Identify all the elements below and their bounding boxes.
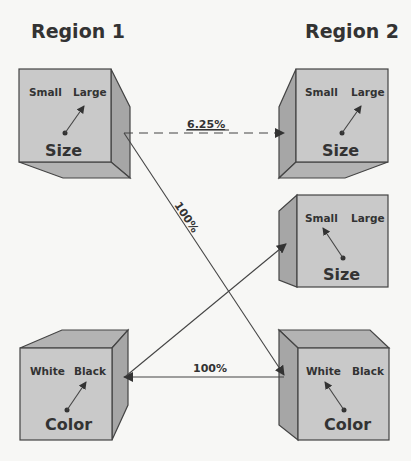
- region-2-title: Region 2: [305, 20, 399, 42]
- connection-size-to-color: 100%: [124, 133, 284, 375]
- connection-label: 100%: [171, 199, 201, 235]
- connection-color-to-size: [126, 244, 286, 376]
- label-large: Large: [351, 212, 385, 224]
- label-white: White: [306, 365, 341, 377]
- cube-region2-size-top: Small Large Size: [279, 69, 388, 178]
- label-black: Black: [352, 365, 385, 377]
- region-1-title: Region 1: [31, 20, 125, 42]
- dimension-color: Color: [324, 415, 371, 434]
- cube-region2-color: White Black Color: [279, 330, 389, 440]
- label-black: Black: [74, 365, 107, 377]
- label-large: Large: [73, 86, 107, 98]
- label-small: Small: [305, 86, 338, 98]
- label-white: White: [30, 365, 65, 377]
- dimension-size: Size: [322, 141, 359, 160]
- connection-label: 6.25%: [187, 118, 225, 131]
- label-small: Small: [29, 86, 62, 98]
- label-small: Small: [305, 212, 338, 224]
- cube-region1-size: Small Large Size: [19, 69, 130, 178]
- connection-label: 100%: [193, 362, 227, 375]
- region-mapping-diagram: Region 1 Region 2 Small Large Size Small…: [0, 0, 411, 461]
- dimension-color: Color: [45, 415, 92, 434]
- connection-color-to-color: 100%: [124, 362, 284, 377]
- cube-region2-size-mid: Small Large Size: [279, 195, 388, 287]
- connection-size-to-size: 6.25%: [124, 118, 284, 133]
- dimension-size: Size: [45, 141, 82, 160]
- dimension-size: Size: [323, 265, 360, 284]
- cube-region1-color: White Black Color: [20, 330, 128, 440]
- label-large: Large: [351, 86, 385, 98]
